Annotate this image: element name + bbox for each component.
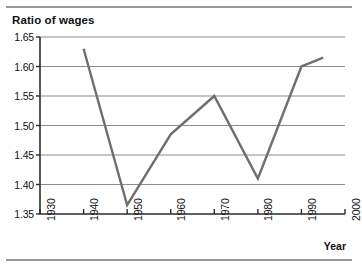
x-axis-tick-label: 1930 <box>45 198 57 221</box>
data-series-line <box>84 49 324 205</box>
x-axis-tick-label: 1950 <box>132 198 144 221</box>
y-axis-tick-label: 1.40 <box>4 179 34 191</box>
y-axis-tick-label: 1.35 <box>4 208 34 220</box>
x-axis-tick-label: 1940 <box>88 198 100 221</box>
x-axis-tick-label: 1980 <box>262 198 274 221</box>
y-axis-tick-label: 1.65 <box>4 31 34 43</box>
y-axis-tick-label: 1.60 <box>4 61 34 73</box>
y-axis-tick-label: 1.50 <box>4 120 34 132</box>
y-axis-tick-label: 1.45 <box>4 149 34 161</box>
bottom-rule <box>6 259 352 261</box>
x-axis-tick-label: 1990 <box>306 198 318 221</box>
x-axis-tick-label: 1960 <box>175 198 187 221</box>
x-axis-tick-label: 2000 <box>350 198 362 221</box>
x-axis-title: Year <box>324 240 346 252</box>
y-axis-tick-label: 1.55 <box>4 90 34 102</box>
x-axis-tick-label: 1970 <box>219 198 231 221</box>
